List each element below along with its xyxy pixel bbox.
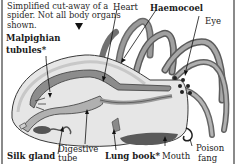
label-lung-book: Lung book* xyxy=(105,152,160,161)
label-mouth: Mouth xyxy=(162,152,190,161)
diagram-caption: Simplified cut-away of a spider. Not all… xyxy=(7,2,127,30)
label-malpighian-tubules-1: Malpighian xyxy=(6,34,60,43)
label-heart: Heart xyxy=(113,3,138,12)
label-eye: Eye xyxy=(205,17,221,26)
label-haemocoel: Haemocoel xyxy=(150,4,203,13)
triangle-down-icon xyxy=(75,23,83,30)
label-malpighian-tubules-2: tubules* xyxy=(6,46,46,55)
label-poison-fang-2: fang xyxy=(198,154,217,163)
label-digestive-tube-2: tube xyxy=(58,154,77,163)
label-poison-fang-1: Poison xyxy=(196,144,224,153)
label-silk-gland: Silk gland xyxy=(7,152,55,161)
